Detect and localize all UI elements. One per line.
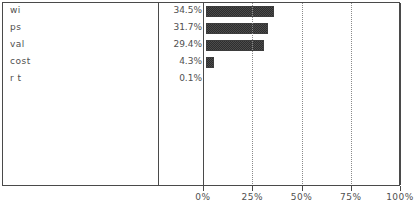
row-value-label: 4.3%	[160, 56, 202, 66]
row-value-label: 0.1%	[160, 73, 202, 83]
x-axis-tick	[400, 186, 401, 191]
chart-row: val29.4%	[2, 37, 400, 54]
gridline	[252, 3, 253, 185]
x-axis-tick	[203, 186, 204, 191]
row-category-label: val	[10, 39, 25, 49]
bar-cell	[205, 71, 400, 88]
chart-row: wi34.5%	[2, 3, 400, 20]
bar-chart-figure: wi34.5%ps31.7%val29.4%cost4.3%r t0.1% 0%…	[0, 0, 418, 213]
x-axis-tick	[351, 186, 352, 191]
row-category-label: ps	[10, 22, 21, 32]
row-category-label: r t	[10, 73, 22, 83]
bar	[206, 6, 274, 17]
chart-row: ps31.7%	[2, 20, 400, 37]
x-axis-tick-label: 0%	[195, 192, 210, 202]
x-axis-tick-label: 75%	[340, 192, 362, 202]
bar-cell	[205, 37, 400, 54]
bar-cell	[205, 20, 400, 37]
row-value-label: 29.4%	[160, 39, 202, 49]
row-category-label: cost	[10, 56, 31, 66]
x-axis-tick-label: 50%	[291, 192, 313, 202]
gridline	[400, 3, 401, 185]
chart-row: r t0.1%	[2, 71, 400, 88]
chart-row: cost4.3%	[2, 54, 400, 71]
bar-cell	[205, 54, 400, 71]
x-axis-tick-label: 100%	[386, 192, 414, 202]
bar-cell	[205, 3, 400, 20]
gridline	[302, 3, 303, 185]
bar	[206, 40, 264, 51]
x-axis-tick	[252, 186, 253, 191]
x-axis-tick	[302, 186, 303, 191]
row-category-label: wi	[10, 5, 21, 15]
gridline	[351, 3, 352, 185]
bar	[206, 23, 268, 34]
bar	[206, 57, 214, 68]
chart-rows: wi34.5%ps31.7%val29.4%cost4.3%r t0.1%	[2, 3, 400, 88]
row-value-label: 34.5%	[160, 5, 202, 15]
x-axis-tick-label: 25%	[241, 192, 263, 202]
row-value-label: 31.7%	[160, 22, 202, 32]
